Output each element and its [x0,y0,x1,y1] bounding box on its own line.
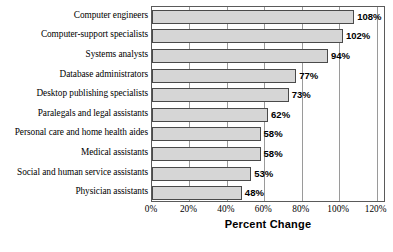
category-label: Database administrators [0,69,148,79]
bar [152,186,242,200]
bar [152,69,296,83]
plot-area: 108%102%94%77%73%62%58%58%53%48% [151,6,385,202]
x-tick-label: 100% [327,203,349,215]
bar [152,108,268,122]
bar-row: 62% [152,108,386,122]
x-tick-label: 20% [180,203,197,215]
bar [152,147,261,161]
bar [152,127,261,141]
bar [152,29,343,43]
bar [152,10,354,24]
bar-row: 58% [152,147,386,161]
bars-layer: 108%102%94%77%73%62%58%58%53%48% [152,7,384,201]
category-label: Computer engineers [0,10,148,20]
category-label: Desktop publishing specialists [0,88,148,98]
x-axis: 0%20%40%60%80%100%120% [151,203,385,217]
x-tick-label: 120% [365,203,387,215]
bar-value-label: 94% [328,49,350,63]
category-label: Paralegals and legal assistants [0,108,148,118]
bar-row: 73% [152,88,386,102]
x-axis-title: Percent Change [151,217,385,231]
category-label: Systems analysts [0,49,148,59]
bar-value-label: 48% [242,186,264,200]
bar-chart: Computer engineersComputer-support speci… [0,0,393,252]
category-label: Computer-support specialists [0,29,148,39]
bar-row: 53% [152,167,386,181]
bar-value-label: 73% [289,88,311,102]
bar [152,88,289,102]
bar-row: 77% [152,69,386,83]
bar-row: 102% [152,29,386,43]
x-tick-label: 0% [145,203,157,215]
bar-value-label: 108% [354,10,381,24]
category-label: Social and human service assistants [0,167,148,177]
bar-value-label: 102% [343,29,370,43]
bar [152,167,251,181]
bar-value-label: 77% [296,69,318,83]
category-label: Personal care and home health aides [0,127,148,137]
bar-value-label: 58% [261,147,283,161]
bar-row: 94% [152,49,386,63]
x-tick-label: 40% [217,203,234,215]
x-tick-label: 80% [292,203,309,215]
bar-row: 108% [152,10,386,24]
bar-value-label: 62% [268,108,290,122]
bar [152,49,328,63]
bar-value-label: 58% [261,127,283,141]
category-axis: Computer engineersComputer-support speci… [0,6,148,202]
bar-row: 58% [152,127,386,141]
category-label: Physician assistants [0,186,148,196]
bar-row: 48% [152,186,386,200]
x-tick-label: 60% [255,203,272,215]
category-label: Medical assistants [0,147,148,157]
bar-value-label: 53% [251,167,273,181]
